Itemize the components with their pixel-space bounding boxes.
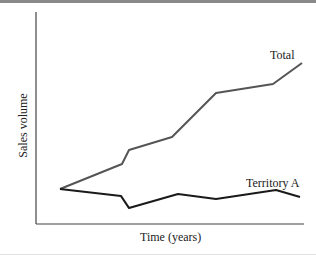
bottom-border: [0, 254, 316, 255]
chart-plot: [0, 0, 316, 257]
series-line-total: [60, 63, 302, 189]
series-label-territory-a: Territory A: [246, 176, 299, 191]
x-axis-label: Time (years): [140, 230, 201, 245]
series-line-territory-a: [60, 189, 300, 208]
y-axis-label: Sales volume: [16, 91, 31, 161]
series-label-total: Total: [270, 48, 295, 63]
